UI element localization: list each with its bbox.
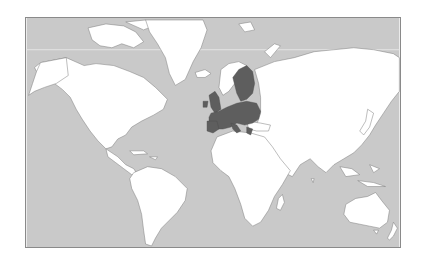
world-map-svg	[26, 18, 400, 247]
world-map	[25, 17, 401, 248]
